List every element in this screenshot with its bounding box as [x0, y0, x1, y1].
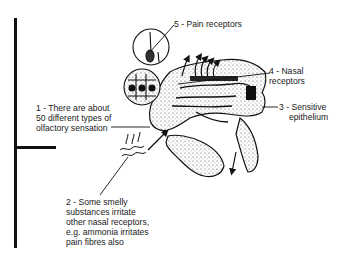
label-sensitive-epithelium: 3 - Sensitive epithelium: [279, 102, 328, 122]
smelly-substance: [120, 132, 146, 156]
label-line: 50 different types of: [36, 113, 111, 123]
label-line: epithelium: [279, 112, 328, 122]
label-line: olfactory sensation: [36, 123, 111, 133]
label-line: substances irritate: [66, 207, 149, 217]
epithelium-dark-patch: [246, 86, 256, 100]
epithelium-band: [190, 76, 238, 81]
magnified-pain-receptor: [133, 29, 169, 65]
label-line: receptors: [269, 76, 305, 86]
label-nasal-receptors: 4 - Nasal receptors: [269, 66, 305, 86]
label-line: other nasal receptors,: [66, 217, 149, 227]
label-line: e.g. ammonia irritates: [66, 227, 149, 237]
label-pain-receptors: 5 - Pain receptors: [174, 19, 242, 29]
label-line: 4 - Nasal: [269, 66, 305, 76]
label-irritant-substances: 2 - Some smelly substances irritate othe…: [66, 197, 149, 247]
label-line: 2 - Some smelly: [66, 197, 149, 207]
label-line: pain fibres also: [66, 237, 149, 247]
magnified-receptor-cells: [124, 69, 160, 105]
label-line: 1 - There are about: [36, 103, 111, 113]
label-line: 5 - Pain receptors: [174, 19, 242, 29]
label-line: 3 - Sensitive: [279, 102, 328, 112]
label-olfactory-types: 1 - There are about 50 different types o…: [36, 103, 111, 133]
